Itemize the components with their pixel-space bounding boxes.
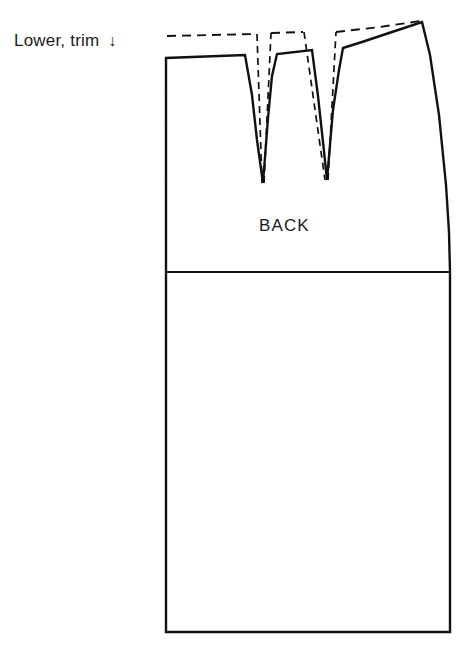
back-piece-label: BACK [259, 216, 310, 236]
pattern-outline-solid [166, 22, 450, 632]
pattern-diagram-canvas: Lower, trim↓ BACK [0, 0, 475, 649]
lower-trim-text: Lower, trim [14, 31, 99, 50]
lower-trim-annotation: Lower, trim↓ [14, 31, 117, 51]
dashed-waistline-panel-2 [271, 32, 303, 33]
pattern-illustration [0, 0, 475, 649]
dashed-waistline-panel-1 [167, 34, 256, 36]
down-arrow-icon: ↓ [108, 32, 116, 50]
